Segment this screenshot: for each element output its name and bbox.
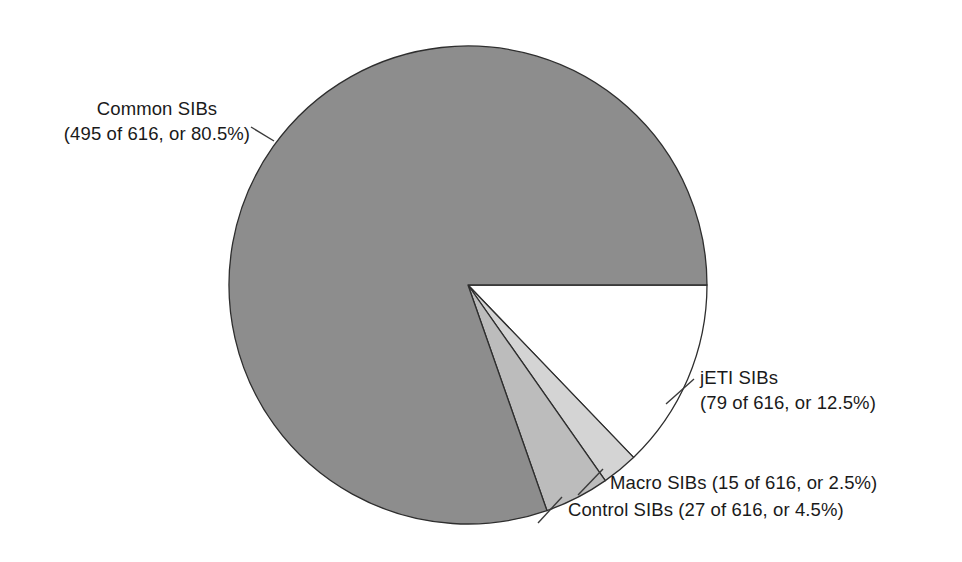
slice-label-jeti-sibs: jETI SIBs (79 of 616, or 12.5%) [700, 365, 876, 415]
slice-label-macro-sibs: Macro SIBs (15 of 616, or 2.5%) [610, 470, 877, 495]
slice-label-control-sibs: Control SIBs (27 of 616, or 4.5%) [568, 497, 844, 522]
slice-label-jeti-sibs-value: (79 of 616, or 12.5%) [700, 390, 876, 415]
pie-slices-group [229, 46, 707, 524]
slice-label-common-sibs: Common SIBs (495 of 616, or 80.5%) [42, 96, 272, 146]
pie-chart-figure: Common SIBs (495 of 616, or 80.5%) jETI … [0, 0, 962, 562]
slice-label-jeti-sibs-name: jETI SIBs [700, 365, 876, 390]
slice-label-control-sibs-text: Control SIBs (27 of 616, or 4.5%) [568, 497, 844, 522]
slice-label-common-sibs-name: Common SIBs [42, 96, 272, 121]
slice-label-macro-sibs-text: Macro SIBs (15 of 616, or 2.5%) [610, 470, 877, 495]
slice-label-common-sibs-value: (495 of 616, or 80.5%) [42, 121, 272, 146]
